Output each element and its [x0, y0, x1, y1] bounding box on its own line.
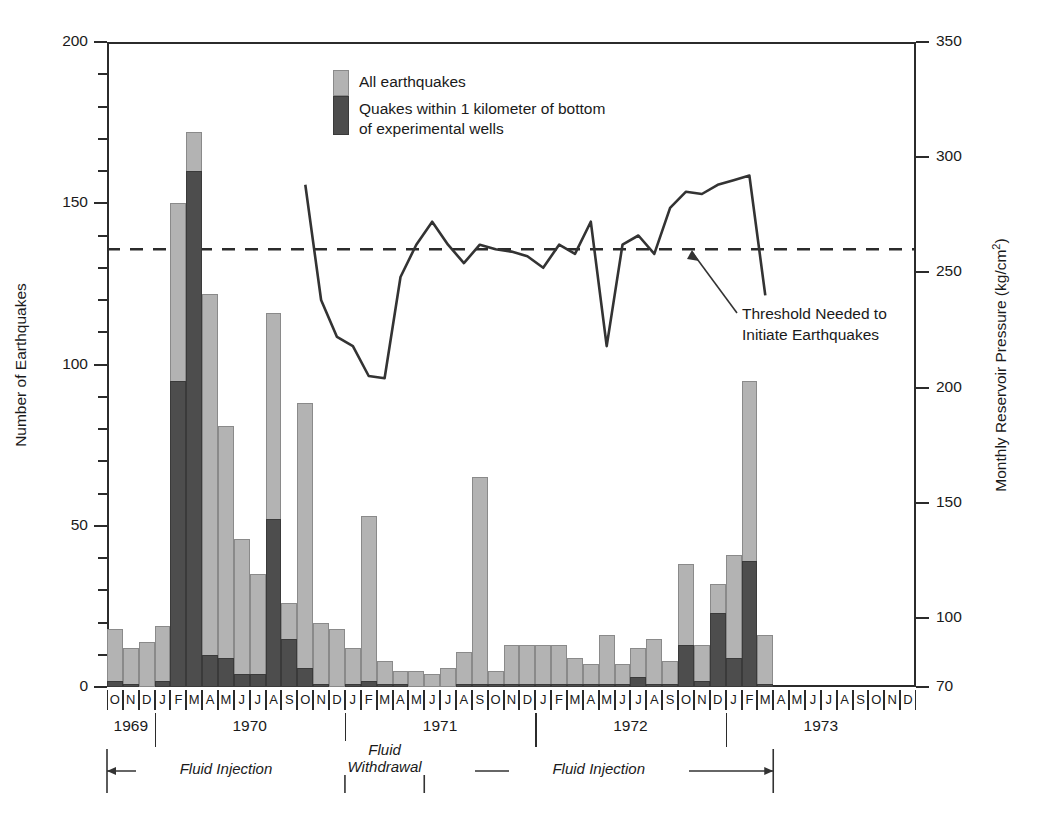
bar-segment-all	[329, 629, 345, 687]
y-axis-title-right-end: )	[992, 238, 1009, 243]
month-label: D	[710, 690, 726, 710]
bar-segment-all	[599, 635, 615, 687]
bar-segment-near-well	[535, 684, 551, 687]
bar-segment-near-well	[710, 613, 726, 687]
bar	[170, 203, 186, 687]
y-tick-label-right: 350	[936, 32, 962, 50]
bar	[630, 648, 646, 687]
y-tick-left	[98, 460, 107, 462]
y-tick-left	[98, 428, 107, 430]
bar	[234, 539, 250, 687]
y-tick-left	[98, 493, 107, 495]
month-label: F	[742, 690, 758, 710]
y-tick-left	[94, 364, 107, 366]
bar	[361, 516, 377, 687]
phase-label: Fluid Injection	[136, 760, 316, 777]
month-label: N	[504, 690, 520, 710]
month-label: M	[377, 690, 393, 710]
month-label: S	[662, 690, 678, 710]
bar-segment-near-well	[742, 561, 758, 687]
month-label: J	[805, 690, 821, 710]
bar-segment-near-well	[361, 681, 377, 687]
bar-segment-all	[297, 403, 313, 687]
y-axis-title-left: Number of Earthquakes	[12, 283, 30, 447]
y-tick-left	[98, 73, 107, 75]
bar	[123, 648, 139, 687]
month-label: D	[329, 690, 345, 710]
bar	[329, 629, 345, 687]
bar-segment-all	[535, 645, 551, 687]
month-label: M	[218, 690, 234, 710]
month-label: J	[440, 690, 456, 710]
bar-segment-near-well	[551, 684, 567, 687]
month-label: M	[567, 690, 583, 710]
bar-segment-near-well	[250, 674, 266, 687]
bar-segment-near-well	[393, 684, 409, 687]
bar	[377, 661, 393, 687]
y-tick-left	[98, 331, 107, 333]
phase-label-line1: Fluid Injection	[509, 760, 689, 777]
month-label: O	[868, 690, 884, 710]
bar	[726, 555, 742, 687]
bar	[662, 661, 678, 687]
bar	[440, 668, 456, 687]
bar-segment-near-well	[678, 645, 694, 687]
bar-segment-near-well	[345, 684, 361, 687]
bar	[646, 639, 662, 687]
y-tick-left	[94, 525, 107, 527]
legend-swatch-all	[333, 70, 349, 96]
month-label: A	[202, 690, 218, 710]
bar	[472, 477, 488, 687]
bar	[155, 626, 171, 687]
bar	[281, 603, 297, 687]
month-label: F	[361, 690, 377, 710]
bar-segment-all	[123, 648, 139, 687]
bar	[535, 645, 551, 687]
y-tick-right	[916, 271, 929, 273]
bar-segment-near-well	[519, 684, 535, 687]
bar	[408, 671, 424, 687]
bar	[742, 381, 758, 687]
bar	[186, 132, 202, 687]
bar-segment-all	[504, 645, 520, 687]
y-tick-right	[916, 502, 929, 504]
y-tick-left	[98, 138, 107, 140]
bar	[757, 635, 773, 687]
bar	[107, 629, 123, 687]
bar	[202, 294, 218, 687]
month-label: O	[678, 690, 694, 710]
year-label: 1969	[91, 717, 171, 735]
month-label: M	[186, 690, 202, 710]
year-separator	[726, 713, 728, 747]
bar-segment-all	[250, 574, 266, 687]
bar-segment-near-well	[646, 684, 662, 687]
bar-segment-near-well	[567, 684, 583, 687]
legend-label-near-well-line2: of experimental wells	[359, 119, 605, 139]
bar-segment-near-well	[281, 639, 297, 687]
y-tick-label-left: 50	[0, 516, 88, 534]
y-tick-left	[98, 622, 107, 624]
y-tick-label-right: 250	[936, 262, 962, 280]
bar-segment-near-well	[186, 171, 202, 687]
annotation-leader	[692, 252, 737, 313]
bar	[599, 635, 615, 687]
bar-segment-near-well	[297, 668, 313, 687]
bar	[250, 574, 266, 687]
phase-label: FluidWithdrawal	[295, 741, 475, 775]
y-tick-left	[98, 654, 107, 656]
y-tick-label-left: 150	[0, 193, 88, 211]
bar	[694, 645, 710, 687]
bar-segment-near-well	[630, 677, 646, 687]
month-label: O	[488, 690, 504, 710]
month-label: N	[884, 690, 900, 710]
y-tick-left	[98, 396, 107, 398]
bar-segment-near-well	[234, 674, 250, 687]
bar-segment-all	[472, 477, 488, 687]
month-label: A	[456, 690, 472, 710]
bar-segment-all	[440, 668, 456, 687]
y-tick-label-left: 0	[0, 677, 88, 695]
threshold-annotation-line1: Threshold Needed to	[742, 303, 887, 324]
year-separator	[535, 713, 537, 747]
chart-root: 05010015020070100150200250300350Number o…	[0, 0, 1038, 824]
bar	[488, 671, 504, 687]
